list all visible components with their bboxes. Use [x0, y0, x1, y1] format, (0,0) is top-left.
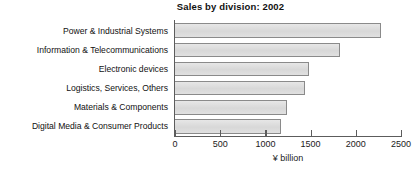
bar-chart: Sales by division: 2002 Power & Industri… [0, 0, 417, 175]
category-axis-labels: Power & Industrial SystemsInformation & … [0, 21, 172, 136]
x-tick-label: 2500 [391, 139, 411, 149]
x-tick-mark [220, 130, 221, 137]
category-label: Electronic devices [99, 64, 168, 74]
bar [175, 23, 381, 38]
x-tick-label: 500 [213, 139, 228, 149]
chart-title-text: Sales by division: 2002 [177, 1, 284, 12]
x-tick-mark [356, 130, 357, 137]
x-tick-label: 1500 [301, 139, 321, 149]
x-tick-mark [175, 130, 176, 137]
bar [175, 100, 287, 115]
chart-title: Sales by division: 2002 [0, 1, 417, 12]
x-tick-label: 0 [172, 139, 177, 149]
x-tick-mark [311, 130, 312, 137]
bar [175, 62, 309, 77]
plot-area [175, 21, 401, 136]
category-label: Logistics, Services, Others [66, 83, 168, 93]
category-label: Information & Telecommunications [37, 45, 168, 55]
category-label: Power & Industrial Systems [63, 26, 168, 36]
x-tick-label: 1000 [255, 139, 275, 149]
x-tick-mark [401, 130, 402, 137]
category-label: Materials & Components [74, 102, 168, 112]
x-tick-mark [265, 130, 266, 137]
bar [175, 81, 305, 96]
x-tick-label: 2000 [346, 139, 366, 149]
x-axis-line [174, 136, 402, 137]
bar [175, 43, 340, 58]
category-label: Digital Media & Consumer Products [32, 121, 168, 131]
x-axis-title: ¥ billion [175, 153, 401, 163]
